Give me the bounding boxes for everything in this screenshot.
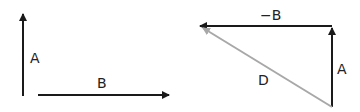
vector-arrows (0, 0, 360, 112)
vector-d-arrow (203, 28, 332, 107)
label-d: D (258, 73, 269, 87)
label-neg-b: −B (260, 8, 281, 22)
label-b: B (97, 76, 107, 90)
vector-diagram: A B −B A D (0, 0, 360, 112)
label-a: A (30, 51, 40, 65)
label-a-right: A (337, 62, 347, 76)
